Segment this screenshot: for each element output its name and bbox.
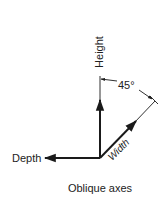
width-extension-line xyxy=(134,101,155,123)
width-end-tick xyxy=(150,96,158,104)
angle-arrow-left xyxy=(101,79,117,81)
angle-arrow-right xyxy=(139,90,152,99)
width-label: Width xyxy=(106,136,132,162)
oblique-axes-diagram: Height 45° Depth Width Oblique axes xyxy=(0,0,167,197)
depth-label: Depth xyxy=(12,152,41,164)
diagram-title: Oblique axes xyxy=(68,182,133,194)
height-label: Height xyxy=(93,36,105,68)
angle-label: 45° xyxy=(118,79,135,91)
